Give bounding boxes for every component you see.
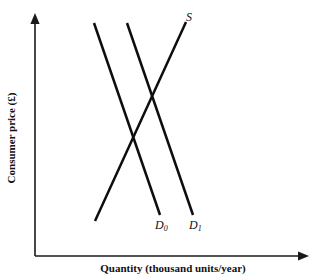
x-axis-arrowhead-icon [298,251,309,260]
chart-plot-area [0,0,328,280]
demand-curve-d0-label-subscript: 0 [164,224,168,233]
y-axis-arrowhead-icon [30,13,39,24]
supply-demand-figure: S D0 D1 Quantity (thousand units/year) C… [0,0,328,280]
demand-curve-d1 [127,23,193,215]
demand-curve-d0-label: D0 [155,219,168,231]
y-axis-label: Consumer price (£) [5,93,17,184]
supply-curve-label: S [186,11,192,23]
demand-curve-d0-label-text: D [155,218,164,232]
demand-curve-d1-label: D1 [189,219,202,231]
demand-curve-d0 [94,23,160,215]
supply-curve [95,22,186,221]
demand-curve-d1-label-subscript: 1 [198,224,202,233]
demand-curve-d1-label-text: D [189,218,198,232]
x-axis-label: Quantity (thousand units/year) [0,262,328,274]
supply-curve-label-text: S [186,10,192,24]
